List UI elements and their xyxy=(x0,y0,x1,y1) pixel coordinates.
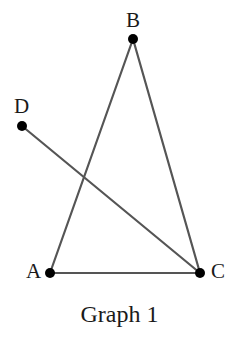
vertex-label-b: B xyxy=(126,10,140,31)
vertex-group xyxy=(17,34,205,278)
graph-figure: B D A C Graph 1 xyxy=(0,0,239,339)
figure-caption: Graph 1 xyxy=(0,301,239,329)
vertex-label-a: A xyxy=(26,261,41,282)
edge-A-B xyxy=(50,39,133,273)
vertex-label-d: D xyxy=(14,96,29,117)
edge-B-C xyxy=(133,39,200,273)
vertex-d xyxy=(17,121,27,131)
edge-D-C xyxy=(22,126,200,273)
vertex-label-c: C xyxy=(211,261,225,282)
vertex-c xyxy=(195,268,205,278)
edge-group xyxy=(22,39,200,273)
vertex-a xyxy=(45,268,55,278)
graph-canvas xyxy=(0,0,239,339)
vertex-b xyxy=(128,34,138,44)
